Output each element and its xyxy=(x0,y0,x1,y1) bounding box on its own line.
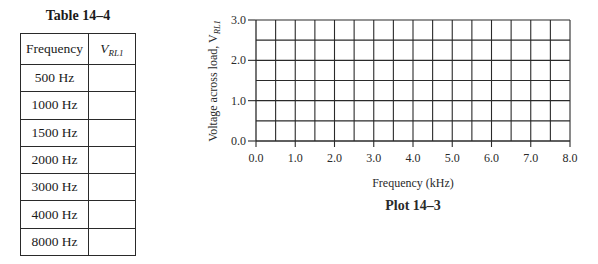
x-tick-label: 6.0 xyxy=(484,151,499,165)
x-tick-label: 8.0 xyxy=(563,151,578,165)
x-tick-label: 1.0 xyxy=(288,151,303,165)
plot-ticks: 0.01.02.03.04.05.06.07.08.00.01.02.03.0 xyxy=(231,13,578,165)
y-tick-label: 2.0 xyxy=(231,53,246,67)
y-axis-label: Voltage across load, VRL1 xyxy=(206,20,222,142)
x-tick-label: 3.0 xyxy=(366,151,381,165)
y-tick-label: 1.0 xyxy=(231,94,246,108)
plot-grid xyxy=(256,20,570,141)
x-tick-label: 4.0 xyxy=(406,151,421,165)
plot-area: 0.01.02.03.04.05.06.07.08.00.01.02.03.0 … xyxy=(0,0,598,264)
x-tick-label: 2.0 xyxy=(327,151,342,165)
plot-title: Plot 14–3 xyxy=(385,198,441,213)
y-tick-label: 3.0 xyxy=(231,13,246,27)
y-tick-label: 0.0 xyxy=(231,134,246,148)
x-axis-label: Frequency (kHz) xyxy=(372,176,454,190)
x-tick-label: 0.0 xyxy=(249,151,264,165)
x-tick-label: 5.0 xyxy=(445,151,460,165)
x-tick-label: 7.0 xyxy=(523,151,538,165)
